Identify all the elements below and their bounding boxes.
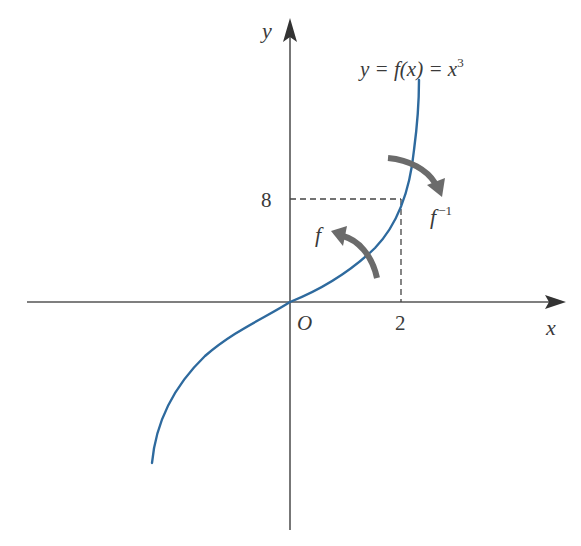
f-inverse-arrow-icon (388, 158, 445, 197)
y-axis (283, 18, 297, 530)
x-axis-label: x (545, 315, 556, 340)
equation-label: y = f(x) = x3 (358, 55, 464, 81)
cubic-curve (152, 80, 419, 463)
y-tick-8: 8 (261, 188, 272, 212)
f-inverse-label: f−1 (430, 203, 452, 229)
guide-lines (290, 199, 401, 302)
function-diagram: y x O 2 8 y = f(x) = x3 f f−1 (0, 0, 581, 546)
f-label: f (315, 222, 324, 247)
origin-label: O (297, 311, 312, 335)
y-axis-label: y (260, 18, 272, 43)
x-axis (27, 295, 566, 309)
x-tick-2: 2 (395, 311, 406, 335)
